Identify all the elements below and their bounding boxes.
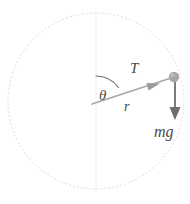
weight-label: mg xyxy=(154,123,174,141)
radius-label: r xyxy=(124,99,130,114)
circular-motion-diagram: θ T r mg xyxy=(0,0,190,204)
particle-dot-icon xyxy=(169,72,179,82)
arrow-down-head-icon xyxy=(170,107,181,120)
angle-label: θ xyxy=(99,87,107,103)
particle-highlight-icon xyxy=(170,73,174,77)
tension-label: T xyxy=(130,60,140,76)
diagram-canvas: θ T r mg xyxy=(0,0,190,204)
arc-angle-icon xyxy=(96,76,119,88)
arrow-outward-icon xyxy=(147,83,161,91)
